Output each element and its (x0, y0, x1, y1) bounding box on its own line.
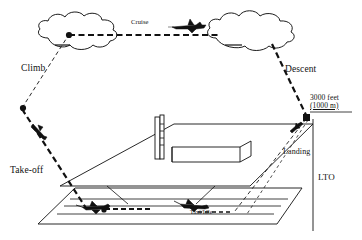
descent-path (272, 44, 307, 117)
airplane-icon-cruise (168, 19, 206, 33)
label-climb: Climb (21, 64, 45, 74)
label-takeoff: Take-off (10, 166, 43, 176)
lto-cycle-diagram: Cruise Climb Descent Take-off Landing LT… (0, 0, 362, 240)
label-taxi-idle: Taxi/Idle (190, 209, 212, 215)
altitude-meters: (1000 m) (310, 102, 339, 110)
label-altitude-threshold: 3000 feet (1000 m) (310, 94, 339, 110)
takeoff-path (22, 109, 86, 208)
label-landing: Landing (283, 148, 310, 156)
cloud-icon-left (38, 12, 116, 50)
airplane-icon-takeoff (31, 124, 47, 140)
label-cruise: Cruise (131, 19, 149, 26)
label-lto: LTO (318, 173, 335, 182)
cloud-icon-right (208, 11, 295, 51)
label-descent: Descent (285, 65, 316, 75)
diagram-canvas (0, 0, 362, 240)
control-tower-icon (155, 115, 164, 159)
